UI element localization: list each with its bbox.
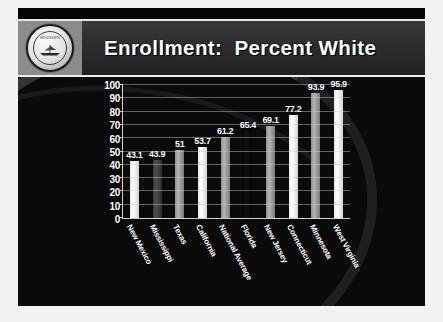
x-axis-category: New Mexico <box>122 223 145 303</box>
y-axis-tick-label: 80 <box>109 106 120 117</box>
y-axis-tick <box>119 190 123 191</box>
bar-column: 61.2 <box>214 85 237 218</box>
y-axis-labels: 0102030405060708090100 <box>92 85 120 219</box>
x-axis-category-label: Florida <box>239 223 259 250</box>
x-axis-category: New Jersey <box>259 223 282 303</box>
x-axis-category-label: West Virginia <box>331 223 361 269</box>
bar: 53.7 <box>198 147 207 218</box>
bar-column: 43.1 <box>123 85 146 218</box>
x-axis-category: California <box>190 223 213 303</box>
x-axis-labels: New MexicoMississippiTexasCaliforniaNati… <box>122 223 350 303</box>
gridline <box>123 164 350 165</box>
x-axis-category: West Virginia <box>327 223 350 303</box>
y-axis-tick-label: 20 <box>109 187 120 198</box>
y-axis-tick <box>119 151 123 152</box>
y-axis-tick <box>119 164 123 165</box>
logo-cell: MISSISSIPPI <box>18 21 82 75</box>
bar-column: 77.2 <box>282 85 305 218</box>
x-axis-category: Florida <box>236 223 259 303</box>
gridline <box>123 190 350 191</box>
y-axis-tick-label: 60 <box>109 133 120 144</box>
bar-column: 93.9 <box>305 85 328 218</box>
bar-column: 95.9 <box>327 85 350 218</box>
gridline <box>123 84 350 85</box>
y-axis-tick-label: 100 <box>104 80 120 91</box>
x-axis-category: Minnesota <box>304 223 327 303</box>
y-axis-tick-label: 70 <box>109 120 120 131</box>
gridline <box>123 137 350 138</box>
top-strip <box>18 8 425 19</box>
y-axis-tick <box>119 111 123 112</box>
bar-value-label: 65.4 <box>240 120 256 130</box>
x-axis-category-label: Texas <box>171 223 189 246</box>
y-axis-tick <box>119 177 123 178</box>
y-axis-tick-label: 40 <box>109 160 120 171</box>
y-axis-tick-label: 50 <box>109 147 120 158</box>
y-axis-tick-label: 0 <box>115 214 120 225</box>
y-axis-tick <box>119 137 123 138</box>
gridline <box>123 151 350 152</box>
y-axis-tick <box>119 84 123 85</box>
bar-column: 43.9 <box>146 85 169 218</box>
x-axis-category: Connecticut <box>282 223 305 303</box>
gridline <box>123 111 350 112</box>
presentation-slide: MISSISSIPPI Enrollment: Percent White 01… <box>0 0 443 322</box>
y-axis-tick-label: 30 <box>109 173 120 184</box>
bar-column: 53.7 <box>191 85 214 218</box>
bar-column: 65.4 <box>237 85 260 218</box>
x-axis-category: Texas <box>168 223 191 303</box>
bar-value-label: 77.2 <box>285 104 301 114</box>
page-title: Enrollment: Percent White <box>104 36 376 60</box>
y-axis-tick <box>119 204 123 205</box>
plot-area: 43.143.95153.761.265.469.177.293.995.9 <box>122 85 350 219</box>
gridline <box>123 97 350 98</box>
gridline <box>123 124 350 125</box>
bar: 77.2 <box>289 115 298 218</box>
bar: 51 <box>175 150 184 218</box>
gridline <box>123 204 350 205</box>
institutional-seal-icon: MISSISSIPPI <box>26 24 74 72</box>
bar: 43.9 <box>153 160 162 218</box>
bar-column: 69.1 <box>259 85 282 218</box>
chart-body: 0102030405060708090100 43.143.95153.761.… <box>18 77 425 306</box>
bar-value-label: 61.2 <box>217 126 233 136</box>
x-axis-category: National Average <box>213 223 236 303</box>
y-axis-tick <box>119 217 123 218</box>
y-axis-tick-label: 10 <box>109 200 120 211</box>
bar: 93.9 <box>311 93 320 218</box>
x-axis-category: Mississippi <box>145 223 168 303</box>
bar: 95.9 <box>334 90 343 218</box>
slide-header: MISSISSIPPI Enrollment: Percent White <box>18 21 425 75</box>
y-axis-tick-label: 90 <box>109 93 120 104</box>
bar-value-label: 51 <box>175 139 184 149</box>
gridline <box>123 177 350 178</box>
seal-top-text: MISSISSIPPI <box>28 37 72 41</box>
ship-icon <box>38 44 62 56</box>
bar: 43.1 <box>130 161 139 218</box>
bar: 65.4 <box>243 131 252 218</box>
bar-series: 43.143.95153.761.265.469.177.293.995.9 <box>123 85 350 218</box>
bar-column: 51 <box>168 85 191 218</box>
y-axis-tick <box>119 97 123 98</box>
y-axis-tick <box>119 124 123 125</box>
chart: 0102030405060708090100 43.143.95153.761.… <box>18 77 425 306</box>
